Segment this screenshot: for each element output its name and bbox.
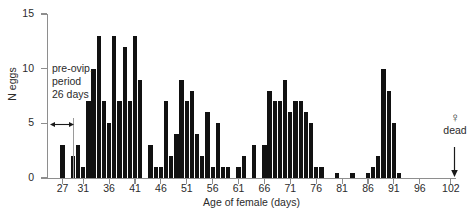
bar-day-58: [221, 167, 225, 178]
x-tick-label-51: 51: [181, 183, 193, 195]
bar-day-51: [185, 101, 189, 178]
bar-day-74: [304, 112, 308, 178]
bar-day-76: [314, 167, 318, 178]
bar-day-44: [148, 145, 152, 178]
bar-day-67: [267, 91, 271, 178]
bar-day-55: [205, 112, 209, 178]
bar-day-71: [288, 112, 292, 178]
bar-day-50: [179, 80, 183, 178]
bar-day-32: [86, 101, 90, 178]
x-tick-label-86: 86: [362, 183, 374, 195]
bar-day-68: [273, 101, 277, 178]
y-tick-label-15: 15: [8, 8, 34, 19]
bar-day-61: [236, 167, 240, 178]
bar-day-89: [381, 69, 385, 178]
female-symbol-icon: ♀: [430, 112, 476, 124]
bar-day-40: [128, 101, 132, 178]
x-tick-label-102: 102: [442, 183, 460, 195]
bar-day-72: [293, 101, 297, 178]
bar-day-53: [195, 134, 199, 178]
y-tick-label-0: 0: [8, 172, 34, 183]
x-tick-label-91: 91: [388, 183, 400, 195]
bar-day-62: [242, 156, 246, 178]
bar-day-59: [226, 167, 230, 178]
bar-day-66: [262, 145, 266, 178]
bar-day-64: [252, 145, 256, 178]
bar-day-36: [107, 123, 111, 178]
x-tick-label-27: 27: [57, 183, 69, 195]
bar-day-45: [154, 167, 158, 178]
dead-label: dead: [430, 124, 476, 137]
x-tick-label-66: 66: [259, 183, 271, 195]
bar-day-39: [123, 47, 127, 178]
bar-day-35: [102, 101, 106, 178]
egg-production-bar-chart: N eggs 051015 27313641465156616671768186…: [0, 0, 476, 215]
bar-day-52: [190, 91, 194, 178]
bar-day-69: [278, 101, 282, 178]
x-tick-label-71: 71: [284, 183, 296, 195]
x-tick-label-96: 96: [414, 183, 426, 195]
bar-day-27: [60, 145, 64, 178]
down-arrow-icon: [449, 147, 460, 177]
x-tick-label-81: 81: [336, 183, 348, 195]
preovip-line-2: period: [52, 75, 93, 88]
bar-day-90: [387, 91, 391, 178]
bar-day-75: [309, 123, 313, 178]
bar-day-38: [117, 101, 121, 178]
bar-day-37: [112, 36, 116, 178]
x-tick-label-36: 36: [103, 183, 115, 195]
plot-area: [47, 14, 456, 178]
bar-day-57: [216, 123, 220, 178]
bar-day-31: [81, 167, 85, 178]
bar-day-70: [283, 80, 287, 178]
bar-day-91: [392, 123, 396, 178]
bar-day-88: [376, 156, 380, 178]
bar-day-54: [200, 156, 204, 178]
x-axis-title: Age of female (days): [47, 196, 456, 208]
preovip-line-1: pre-ovip.: [52, 62, 93, 75]
double-headed-arrow-icon: [50, 120, 74, 129]
bar-day-41: [133, 36, 137, 178]
x-tick-label-31: 31: [77, 183, 89, 195]
x-tick-label-41: 41: [129, 183, 141, 195]
x-tick-label-76: 76: [310, 183, 322, 195]
x-tick-label-61: 61: [233, 183, 245, 195]
bar-day-56: [211, 167, 215, 178]
x-tick-label-56: 56: [207, 183, 219, 195]
bar-day-48: [169, 156, 173, 178]
bar-day-34: [97, 36, 101, 178]
bar-day-49: [174, 134, 178, 178]
bar-day-77: [319, 167, 323, 178]
y-tick-label-10: 10: [8, 63, 34, 74]
bar-day-87: [371, 167, 375, 178]
bar-day-46: [159, 167, 163, 178]
bar-day-47: [164, 101, 168, 178]
x-tick-label-46: 46: [155, 183, 167, 195]
bar-day-30: [76, 145, 80, 178]
female-dead-annotation: ♀ dead: [430, 112, 476, 137]
preovip-line-3: 26 days: [52, 88, 93, 101]
y-tick-label-5: 5: [8, 117, 34, 128]
pre-oviposition-annotation: pre-ovip. period 26 days: [52, 62, 93, 101]
bar-day-73: [299, 101, 303, 178]
bar-day-42: [138, 80, 142, 178]
